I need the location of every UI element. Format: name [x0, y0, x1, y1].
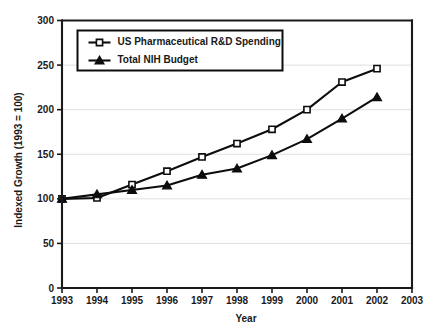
x-tick-label-2003: 2003 — [401, 295, 424, 306]
y-tick-label-0: 0 — [48, 283, 54, 294]
y-tick-label-100: 100 — [37, 193, 54, 204]
x-tick-label-1996: 1996 — [156, 295, 179, 306]
legend-square-marker-icon — [96, 39, 102, 45]
x-tick-label-1998: 1998 — [226, 295, 249, 306]
x-tick-label-2000: 2000 — [296, 295, 319, 306]
y-tick-label-150: 150 — [37, 149, 54, 160]
legend-entry-pharma-rd-spending: US Pharmaceutical R&D Spending — [89, 36, 281, 47]
x-tick-label-2002: 2002 — [366, 295, 389, 306]
data-point-0-1999 — [269, 126, 275, 132]
chart-legend: US Pharmaceutical R&D SpendingTotal NIH … — [78, 31, 283, 71]
y-tick-label-50: 50 — [43, 238, 55, 249]
x-tick-label-2001: 2001 — [331, 295, 354, 306]
data-point-0-1997 — [199, 154, 205, 160]
x-tick-label-1995: 1995 — [121, 295, 144, 306]
data-point-0-1998 — [234, 140, 240, 146]
x-axis-title: Year — [235, 313, 256, 324]
legend-label-1: Total NIH Budget — [118, 54, 199, 65]
x-tick-label-1993: 1993 — [51, 295, 74, 306]
x-tick-label-1997: 1997 — [191, 295, 214, 306]
chart-container: 050100150200250300 199319941995199619971… — [0, 0, 433, 336]
data-point-0-1996 — [164, 168, 170, 174]
y-tick-label-250: 250 — [37, 60, 54, 71]
data-point-0-2002 — [374, 66, 380, 72]
indexed-growth-line-chart: 050100150200250300 199319941995199619971… — [0, 0, 433, 336]
data-point-0-2000 — [304, 107, 310, 113]
y-axis-title: Indexed Growth (1993 = 100) — [13, 92, 24, 227]
data-point-0-2001 — [339, 79, 345, 85]
x-tick-label-1994: 1994 — [86, 295, 109, 306]
x-tick-label-1999: 1999 — [261, 295, 284, 306]
y-tick-label-300: 300 — [37, 15, 54, 26]
legend-label-0: US Pharmaceutical R&D Spending — [118, 36, 281, 47]
y-tick-label-200: 200 — [37, 104, 54, 115]
